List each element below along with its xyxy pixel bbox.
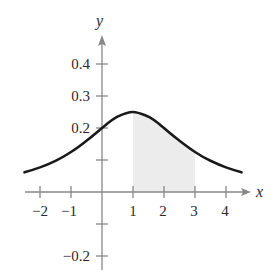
x-tick-label: −1 [61,203,77,219]
x-tick-label: 3 [190,203,198,219]
y-tick-label: 0.2 [71,120,90,136]
shaded-area [133,112,195,192]
y-tick-label: 0.3 [71,88,90,104]
x-tick-label: 1 [129,203,137,219]
x-tick-label: 2 [159,203,167,219]
x-tick-label: −2 [32,203,48,219]
y-tick-label: −0.2 [63,248,90,264]
y-tick-label: 0.4 [71,56,90,72]
x-tick-label: 4 [221,203,229,219]
x-axis-label: x [255,183,263,200]
function-graph: y x −2 −1 1 2 3 4 0.4 0.3 0.2 −0.2 [0,0,279,280]
y-axis-label: y [94,12,104,30]
